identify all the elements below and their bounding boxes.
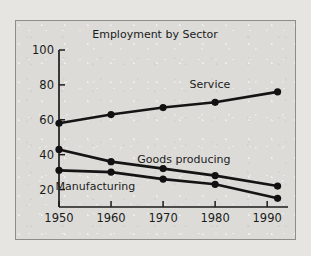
data-point-manufacturing-1970 (159, 175, 166, 182)
data-point-service-1980 (212, 99, 219, 106)
y-tick-label: 40 (39, 148, 54, 162)
figure-frame: Employment by Sector 20406080100 1950196… (15, 20, 296, 240)
x-tick-label: 1960 (96, 211, 125, 225)
series-label-goods-producing: Goods producing (137, 153, 230, 166)
data-point-goods-producing-1992 (274, 182, 281, 189)
series-label-service: Service (190, 78, 231, 91)
series-line-service (59, 92, 278, 123)
chart-screenshot: { "chart_data": { "type": "line", "title… (0, 0, 311, 256)
data-point-goods-producing-1960 (107, 158, 114, 165)
data-point-manufacturing-1992 (274, 195, 281, 202)
x-tick-label: 1980 (200, 211, 229, 225)
data-point-service-1950 (55, 120, 62, 127)
data-point-manufacturing-1950 (55, 167, 62, 174)
data-point-goods-producing-1980 (212, 172, 219, 179)
x-axis: 19501960197019801990 (44, 201, 288, 225)
data-point-service-1992 (274, 88, 281, 95)
y-tick-label: 100 (32, 43, 54, 57)
data-point-service-1970 (159, 104, 166, 111)
data-point-manufacturing-1960 (107, 169, 114, 176)
x-tick-label: 1970 (148, 211, 177, 225)
chart-title: Employment by Sector (92, 28, 218, 41)
data-point-manufacturing-1980 (212, 181, 219, 188)
y-tick-label: 20 (39, 183, 54, 197)
y-tick-label: 80 (39, 78, 54, 92)
employment-by-sector-chart: Employment by Sector 20406080100 1950196… (16, 21, 295, 239)
data-point-goods-producing-1950 (55, 146, 62, 153)
x-tick-label: 1990 (253, 211, 282, 225)
y-tick-label: 60 (39, 113, 54, 127)
data-point-service-1960 (107, 111, 114, 118)
series-label-manufacturing: Manufacturing (56, 180, 136, 193)
x-tick-group: 19501960197019801990 (44, 201, 281, 225)
x-tick-label: 1950 (44, 211, 73, 225)
